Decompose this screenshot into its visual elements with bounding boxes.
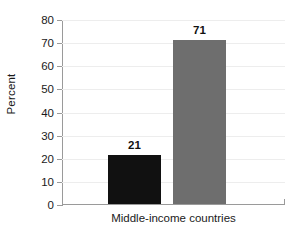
bar-value-label: 21 [128, 139, 141, 151]
y-axis-tick-label: 10 [41, 176, 54, 188]
bar: 71 [173, 40, 226, 204]
x-axis-line [62, 204, 285, 205]
y-axis-title: Percent [5, 59, 17, 129]
y-axis-tick-label: 60 [41, 60, 54, 72]
y-axis-tick-mark [57, 205, 62, 206]
y-axis-tick-label: 0 [48, 199, 54, 211]
y-axis-tick-label: 30 [41, 130, 54, 142]
y-axis-tick-mark [57, 20, 62, 21]
y-axis-tick-mark [57, 66, 62, 67]
y-axis-tick-mark [57, 136, 62, 137]
bar-chart: Percent 01020304050607080 2171 Middle-in… [0, 0, 295, 237]
gridline [62, 20, 285, 21]
y-axis-tick-mark [57, 113, 62, 114]
y-axis-tick-label: 80 [41, 14, 54, 26]
x-axis-category-label: Middle-income countries [62, 212, 285, 224]
plot-area: 01020304050607080 2171 [62, 20, 285, 205]
y-axis-tick-mark [57, 159, 62, 160]
y-axis-tick-mark [57, 89, 62, 90]
y-axis-tick-label: 70 [41, 37, 54, 49]
y-axis-tick-label: 40 [41, 107, 54, 119]
bar: 21 [108, 155, 161, 204]
y-axis-tick-label: 20 [41, 153, 54, 165]
bar-value-label: 71 [193, 24, 206, 36]
y-axis-tick-mark [57, 43, 62, 44]
x-axis-end-tick [284, 199, 285, 205]
y-axis-tick-label: 50 [41, 83, 54, 95]
y-axis-tick-mark [57, 182, 62, 183]
